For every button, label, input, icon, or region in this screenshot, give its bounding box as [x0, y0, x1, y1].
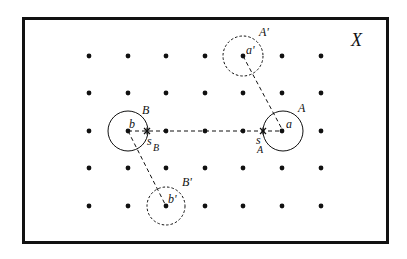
- grid-point: [241, 166, 246, 171]
- grid-point: [164, 54, 169, 59]
- point-a-label: a: [286, 117, 292, 131]
- grid-point: [280, 166, 285, 171]
- point-a-prime-label: a': [246, 43, 255, 57]
- s-b-label: s: [147, 134, 152, 148]
- diagram-canvas: X A a B b A' a' B' b' s A s B: [0, 0, 407, 259]
- connections: [128, 56, 283, 206]
- grid-point: [203, 91, 208, 96]
- point-b-label: b: [129, 117, 135, 131]
- grid-point: [319, 166, 324, 171]
- grid-point: [203, 166, 208, 171]
- grid-point: [319, 54, 324, 59]
- grid-point: [87, 54, 92, 59]
- grid-point: [126, 54, 131, 59]
- grid-point: [319, 204, 324, 209]
- connection-a-prime-to-a: [243, 56, 283, 131]
- grid-point: [126, 204, 131, 209]
- grid-point: [241, 91, 246, 96]
- region-a-label: A: [297, 101, 306, 115]
- grid-point: [280, 54, 285, 59]
- grid-point: [280, 91, 285, 96]
- grid-point: [87, 204, 92, 209]
- grid-point: [87, 129, 92, 134]
- s-b-subscript: B: [153, 142, 159, 153]
- boundary-point-s-a: [260, 128, 266, 135]
- grid-point: [319, 129, 324, 134]
- s-a-subscript: A: [256, 144, 264, 155]
- grid-point: [280, 204, 285, 209]
- grid-point: [87, 166, 92, 171]
- grid-point: [126, 166, 131, 171]
- region-b-prime-label: B': [182, 175, 192, 189]
- grid-point: [87, 91, 92, 96]
- grid-point: [164, 166, 169, 171]
- grid-point: [203, 204, 208, 209]
- space-label: X: [350, 30, 363, 50]
- grid-point: [203, 54, 208, 59]
- region-b-label: B: [142, 103, 150, 117]
- point-b-prime-label: b': [168, 192, 177, 206]
- grid-point: [241, 204, 246, 209]
- grid-point: [126, 91, 131, 96]
- region-a-prime-label: A': [258, 25, 269, 39]
- grid-point: [164, 91, 169, 96]
- grid-point: [319, 91, 324, 96]
